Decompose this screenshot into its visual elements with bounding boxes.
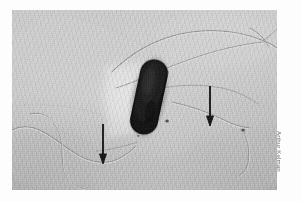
photo-credit: Arthur Kelman xyxy=(275,131,283,191)
film-grain-overlay xyxy=(12,10,277,190)
micrograph-figure: Arthur Kelman xyxy=(0,0,302,202)
micrograph-plate xyxy=(12,10,277,190)
micrograph-content xyxy=(12,10,277,190)
